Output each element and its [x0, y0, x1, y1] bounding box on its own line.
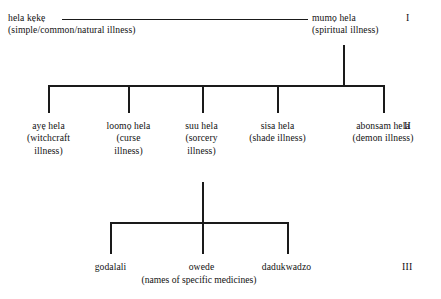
node-abonsam-hela-term: abonsam hela [327, 120, 439, 132]
node-hela-keke-gloss: (simple/common/natural illness) [8, 24, 136, 36]
node-sisa-hela: sisa hela (shade illness) [229, 120, 326, 145]
level-label-ii: II [404, 120, 411, 131]
connector-level2-drop-3 [202, 85, 204, 113]
node-mumo-hela: mumọ hela (spiritual illness) [312, 12, 379, 37]
connector-level2-drop-2 [128, 85, 130, 113]
connector-level2-drop-5 [383, 85, 385, 113]
node-mumo-hela-gloss: (spiritual illness) [312, 24, 379, 36]
connector-mumo-stem [343, 45, 345, 86]
node-hela-keke: hela kẹkẹ (simple/common/natural illness… [8, 12, 136, 37]
node-suu-hela-gloss-line2: illness) [153, 145, 250, 157]
node-godalali-term: godalali [70, 261, 151, 273]
level-label-iii: III [402, 261, 413, 272]
node-sisa-hela-term: sisa hela [229, 120, 326, 132]
node-sisa-hela-gloss-line1: (shade illness) [229, 132, 326, 144]
connector-suu-stem [202, 182, 204, 223]
connector-level3-drop-2 [202, 222, 204, 254]
connector-level2-bar [48, 85, 384, 87]
connector-level3-drop-1 [110, 222, 112, 254]
connector-level2-drop-1 [48, 85, 50, 113]
connector-level2-drop-4 [277, 85, 279, 113]
node-abonsam-hela: abonsam hela (demon illness) [327, 120, 439, 145]
node-godalali: godalali [70, 261, 151, 273]
node-mumo-hela-term: mumọ hela [312, 12, 379, 24]
node-dadukwadzo-term: dadukwadzo [246, 261, 327, 273]
connector-level1-horizontal [62, 19, 308, 21]
connector-level3-drop-3 [287, 222, 289, 254]
connector-level3-bar [110, 222, 288, 224]
node-dadukwadzo: dadukwadzo [246, 261, 327, 273]
node-owede-term: owede [161, 261, 242, 273]
level-label-i: I [406, 12, 410, 23]
node-owede: owede [161, 261, 242, 273]
node-abonsam-hela-gloss-line1: (demon illness) [327, 132, 439, 144]
taxonomy-diagram: hela kẹkẹ (simple/common/natural illness… [0, 0, 441, 299]
level3-caption: (names of specific medicines) [110, 274, 288, 285]
